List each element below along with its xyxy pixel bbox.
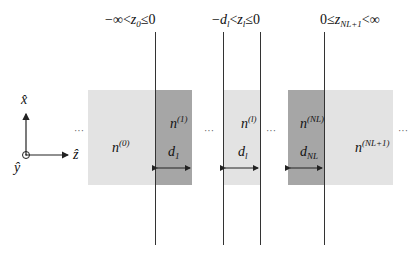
- axis-z-label: ẑ: [73, 147, 78, 163]
- axis-y-label: ŷ: [14, 160, 20, 176]
- ellipsis-3: ···: [266, 125, 276, 136]
- axis-x-label: x̂: [21, 92, 27, 108]
- ellipsis-1: ···: [74, 125, 84, 136]
- ellipsis-2: ···: [204, 125, 214, 136]
- ellipsis-4: ···: [398, 125, 408, 136]
